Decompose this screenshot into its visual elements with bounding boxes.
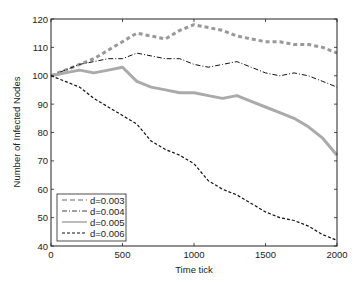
x-axis-label: Time tick xyxy=(175,264,213,275)
x-tick-label: 500 xyxy=(115,249,131,260)
y-tick-label: 60 xyxy=(37,184,48,195)
legend: d=0.003 d=0.004 d=0.005 d=0.006 xyxy=(57,194,126,241)
legend-label-d0003: d=0.003 xyxy=(90,195,125,206)
y-axis-label: Number of Infected Nodes xyxy=(11,76,22,187)
y-tick-label: 90 xyxy=(37,99,48,110)
x-tick-label: 0 xyxy=(48,249,53,260)
y-tick-label: 70 xyxy=(37,155,48,166)
x-tick-label: 1000 xyxy=(183,249,204,260)
y-tick-label: 40 xyxy=(37,241,48,252)
legend-label-d0005: d=0.005 xyxy=(90,217,125,228)
y-tick-label: 80 xyxy=(37,127,48,138)
y-tick-label: 100 xyxy=(32,70,48,81)
legend-label-d0006: d=0.006 xyxy=(90,228,125,239)
y-tick-label: 110 xyxy=(33,42,48,53)
y-tick-label: 120 xyxy=(32,14,48,25)
line-chart: 405060708090100110120 0500100015002000 T… xyxy=(0,0,364,286)
x-tick-label: 1500 xyxy=(255,249,276,260)
legend-label-d0004: d=0.004 xyxy=(90,206,125,217)
y-tick-label: 50 xyxy=(37,212,48,223)
x-tick-label: 2000 xyxy=(326,249,347,260)
